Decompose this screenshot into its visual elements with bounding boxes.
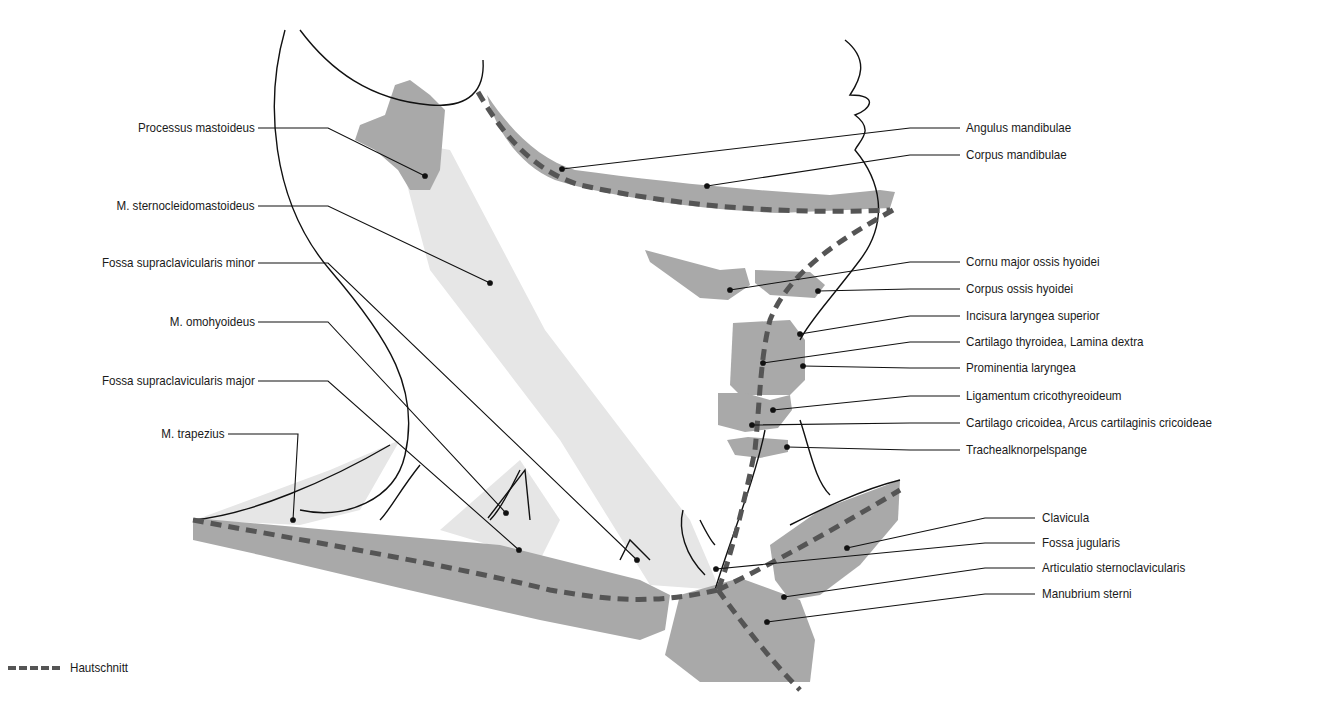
label-cartilago-cricoidea: Cartilago cricoidea, Arcus cartilaginis … [966,416,1212,430]
label-processus-mastoideus: Processus mastoideus [138,121,255,135]
label-incisura-laryngea-superior: Incisura laryngea superior [966,309,1100,323]
legend-label-hautschnitt: Hautschnitt [70,660,128,675]
legend: Hautschnitt [8,660,138,675]
label-fossa-supraclavicularis-minor: Fossa supraclavicularis minor [102,256,255,270]
neck-anatomy-illustration [0,0,1317,710]
label-articulatio-sternoclavicularis: Articulatio sternoclavicularis [1042,561,1185,575]
clavicle-right [770,480,900,600]
label-prominentia-laryngea: Prominentia laryngea [966,361,1076,375]
dashed-line-icon [8,666,60,670]
label-cartilago-thyroidea: Cartilago thyroidea, Lamina dextra [966,335,1143,349]
label-fossa-jugularis: Fossa jugularis [1042,536,1120,550]
label-fossa-supraclavicularis-major: Fossa supraclavicularis major [102,374,255,388]
label-corpus-ossis-hyoidei: Corpus ossis hyoidei [966,282,1073,296]
mastoid-process [355,80,445,190]
label-cornu-major-ossis-hyoidei: Cornu major ossis hyoidei [966,255,1100,269]
label-m-trapezius: M. trapezius [162,427,225,441]
label-trachealknorpelspange: Trachealknorpelspange [966,443,1087,457]
label-angulus-mandibulae: Angulus mandibulae [966,121,1071,135]
label-m-sternocleidomastoideus: M. sternocleidomastoideus [117,199,255,213]
thyroid-cartilage [730,320,805,395]
label-m-omohyoideus: M. omohyoideus [170,315,255,329]
clavicle-left [193,518,670,640]
label-manubrium-sterni: Manubrium sterni [1042,587,1132,601]
label-corpus-mandibulae: Corpus mandibulae [966,148,1067,162]
hyoid-greater-horn [645,250,750,300]
label-clavicula: Clavicula [1042,511,1089,525]
label-ligamentum-cricothyreoideum: Ligamentum cricothyreoideum [966,389,1122,403]
